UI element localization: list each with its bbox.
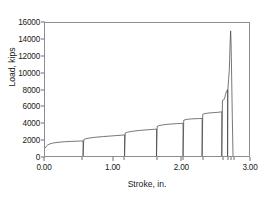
x-minor-tick-mark (82, 157, 83, 160)
chart-figure: Load, kips 02000400060008000100001200014… (0, 0, 270, 199)
x-tick-mark (250, 157, 251, 161)
x-tick-mark (181, 157, 182, 161)
y-tick-label: 8000 (23, 85, 40, 94)
plot-area (44, 22, 250, 157)
x-minor-tick-mark (228, 157, 229, 160)
y-tick-label: 16000 (18, 18, 40, 27)
x-minor-tick-mark (233, 157, 234, 160)
x-minor-tick-mark (156, 157, 157, 160)
x-minor-tick-mark (231, 157, 232, 160)
x-axis-tick-marks (44, 157, 250, 162)
x-minor-tick-mark (124, 157, 125, 160)
x-tick-label: 0.00 (36, 163, 51, 172)
x-minor-tick-mark (222, 157, 223, 160)
y-tick-label: 2000 (23, 136, 40, 145)
x-axis-tick-labels: 0.001.002.003.00 (44, 163, 250, 177)
x-axis-title: Stroke, in. (44, 179, 250, 189)
load-stroke-curve (45, 31, 233, 156)
x-minor-tick-mark (183, 157, 184, 160)
x-tick-mark (112, 157, 113, 161)
y-tick-label: 14000 (18, 34, 40, 43)
y-axis-tick-labels: 0200040006000800010000120001400016000 (0, 22, 40, 157)
x-tick-label: 2.00 (174, 163, 189, 172)
x-tick-mark (44, 157, 45, 161)
y-tick-label: 12000 (18, 51, 40, 60)
y-tick-label: 10000 (18, 68, 40, 77)
x-minor-tick-mark (202, 157, 203, 160)
y-tick-label: 6000 (23, 102, 40, 111)
y-tick-label: 4000 (23, 119, 40, 128)
plot-svg (45, 23, 249, 156)
x-tick-label: 1.00 (105, 163, 120, 172)
x-tick-label: 3.00 (242, 163, 257, 172)
